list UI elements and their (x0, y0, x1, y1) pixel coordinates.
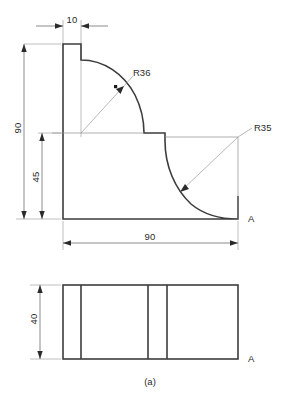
radius-callout-r36: R36 (81, 67, 150, 133)
technical-drawing-sheet: 10 R36 R35 (0, 0, 285, 404)
dimension-width-10: 10 (36, 14, 108, 29)
section-label-a-top: A (248, 353, 255, 364)
section-label-a-front: A (248, 213, 255, 224)
arrowhead-40-bottom (37, 351, 42, 359)
arrowhead-45-top (39, 133, 44, 141)
front-profile-outline (63, 44, 238, 219)
center-mark-r36 (114, 85, 117, 88)
leader-shoulder-r35 (238, 128, 252, 137)
arrowhead-45-bottom (39, 211, 44, 219)
radius-text-r35: R35 (254, 122, 271, 133)
radius-callout-r35: R35 (180, 122, 271, 192)
arrowhead-90-top (21, 44, 26, 52)
arrowhead-40-top (37, 285, 42, 293)
dimension-height-90: 90 (12, 44, 61, 219)
leader-line-r35 (182, 137, 238, 190)
plan-outline (63, 285, 238, 359)
dimension-text-10: 10 (67, 14, 78, 25)
dimension-text-45: 45 (30, 172, 41, 183)
dimension-height-45: 45 (30, 133, 61, 219)
arrowhead-90w-right (230, 240, 238, 245)
dimension-text-90: 90 (12, 123, 23, 134)
arrowhead-90w-left (63, 240, 71, 245)
dimension-text-40: 40 (28, 314, 39, 325)
arrowhead-10-right (81, 23, 89, 28)
top-plan-view: 40 A (28, 285, 255, 364)
leader-line-r36 (81, 76, 133, 133)
dimension-width-90: 90 (63, 221, 238, 250)
arrowhead-r35 (180, 184, 189, 192)
arrowhead-90-bottom (21, 211, 26, 219)
dimension-text-90-width: 90 (145, 231, 156, 242)
front-elevation-view: 10 R36 R35 (12, 14, 271, 250)
radius-text-r36: R36 (133, 67, 150, 78)
arrowhead-10-left (55, 23, 63, 28)
figure-caption: (a) (144, 376, 156, 387)
dimension-depth-40: 40 (28, 285, 61, 359)
